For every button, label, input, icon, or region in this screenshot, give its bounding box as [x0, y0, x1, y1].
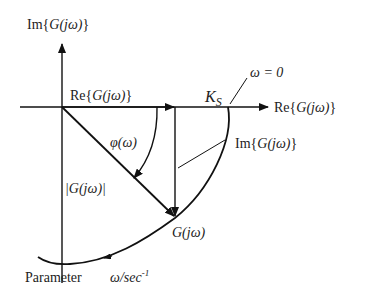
- re-component-label: Re{G(jω)}: [70, 88, 132, 104]
- phase-arc: [134, 107, 157, 178]
- parameter-label: Parameter: [25, 270, 82, 285]
- phase-label: φ(ω): [110, 135, 137, 151]
- static-gain-label: KS: [204, 88, 222, 109]
- point-label: G(jω): [172, 225, 206, 241]
- re-axis-label: Re{G(jω)}: [274, 100, 336, 116]
- parameter-unit-label: ω/sec-1: [110, 268, 149, 285]
- omega-zero-label: ω = 0: [250, 65, 283, 80]
- im-axis-label: Im{G(jω)}: [27, 17, 89, 33]
- omega-zero-leader: [230, 78, 247, 104]
- magnitude-vector: [62, 107, 174, 216]
- nyquist-diagram: Im{G(jω)} Re{G(jω)} Re{G(jω)} Im{G(jω)} …: [0, 0, 365, 302]
- magnitude-label: |G(jω)|: [65, 181, 106, 197]
- im-component-label: Im{G(jω)}: [235, 136, 297, 152]
